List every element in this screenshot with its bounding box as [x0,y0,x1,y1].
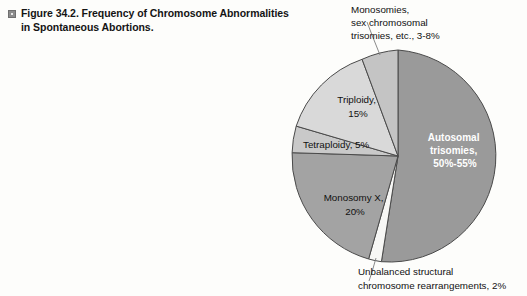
label-monosomy-x-line1: Monosomy X, [324,192,384,203]
callout-monosomies-line1: Monosomies, [351,4,409,15]
callout-monosomies-line2: sex chromosomal [351,17,428,28]
pie-chart: Autosomal trisomies, 50%-55% Triploidy, … [0,0,527,296]
label-autosomal-line3: 50%-55% [433,158,476,169]
label-triploidy-line2: 15% [348,108,368,119]
callout-monosomies-line3: trisomies, etc., 3-8% [351,30,440,41]
callout-unbalanced-line1: Unbalanced structural [358,266,453,277]
label-autosomal-line2: trisomies, [430,145,477,156]
label-triploidy-line1: Triploidy, [337,94,376,105]
label-autosomal-line1: Autosomal [428,132,480,143]
figure-container: Figure 34.2. Frequency of Chromosome Abn… [0,0,527,296]
label-autosomal-trisomies: Autosomal trisomies, 50%-55% [428,132,482,169]
callout-monosomies: Monosomies, sex chromosomal trisomies, e… [351,4,440,41]
label-tetraploidy: Tetraploidy, 5% [303,139,370,150]
callout-unbalanced: Unbalanced structural chromosome rearran… [358,266,506,291]
callout-unbalanced-line2: chromosome rearrangements, 2% [358,280,506,291]
pie-slice-autosomal-trisomies [381,50,495,262]
label-monosomy-x-line2: 20% [345,206,365,217]
